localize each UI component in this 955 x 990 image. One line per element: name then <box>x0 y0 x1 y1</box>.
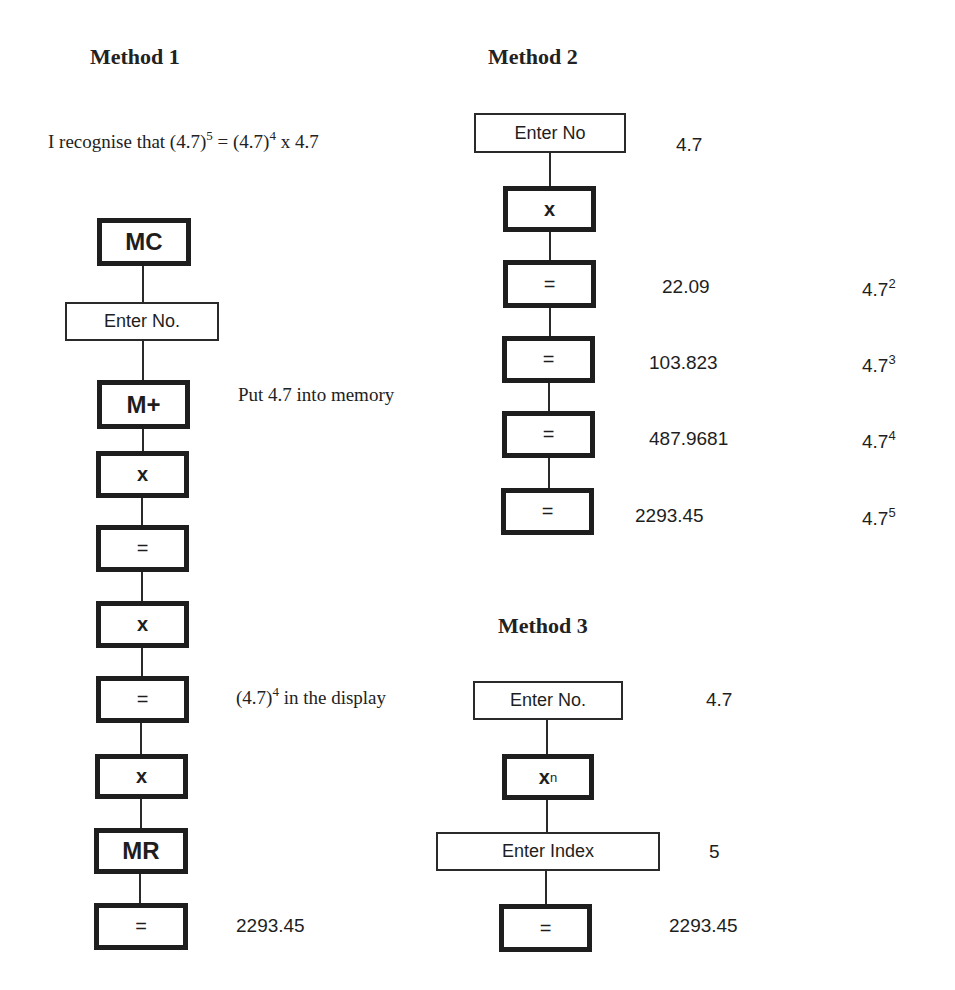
connector-line <box>139 872 141 906</box>
connector-line <box>142 264 144 304</box>
connector-line <box>549 306 551 338</box>
multiply-key[interactable]: x <box>95 754 188 799</box>
equals-key[interactable]: = <box>502 336 595 383</box>
connector-line <box>142 339 144 381</box>
enter-index-box[interactable]: Enter Index <box>436 832 660 871</box>
display-value: 103.823 <box>649 352 718 374</box>
connector-line <box>140 796 142 830</box>
mc-key[interactable]: MC <box>97 218 191 266</box>
power-label: 4.73 <box>862 352 896 377</box>
equals-key[interactable]: = <box>503 260 596 308</box>
power-exponent: 2 <box>888 276 895 291</box>
equals-key[interactable]: = <box>94 903 188 950</box>
equals-key[interactable]: = <box>499 904 592 952</box>
enter-number-box[interactable]: Enter No. <box>473 681 623 720</box>
connector-line <box>141 571 143 602</box>
memory-annotation: Put 4.7 into memory <box>238 384 394 406</box>
multiply-key[interactable]: x <box>96 451 189 498</box>
method2-title: Method 2 <box>488 44 578 70</box>
index-value: 5 <box>709 841 720 863</box>
power-exponent: 3 <box>888 352 895 367</box>
connector-line <box>548 456 550 490</box>
connector-line <box>546 798 548 834</box>
multiply-key[interactable]: x <box>503 186 596 232</box>
method1-result: 2293.45 <box>236 915 305 937</box>
display-value: 4.7 <box>706 689 732 711</box>
power-base: 4.7 <box>862 508 888 529</box>
method3-title: Method 3 <box>498 613 588 639</box>
display-value: 2293.45 <box>635 505 704 527</box>
connector-line <box>141 496 143 526</box>
multiply-key[interactable]: x <box>96 601 189 648</box>
power-key-exponent: n <box>550 770 557 785</box>
connector-line <box>546 719 548 755</box>
m-plus-key[interactable]: M+ <box>97 380 190 429</box>
equals-key[interactable]: = <box>96 676 189 723</box>
equals-key[interactable]: = <box>501 488 594 535</box>
power-base: 4.7 <box>862 279 888 300</box>
display-suffix: in the display <box>279 687 386 708</box>
display-value: 487.9681 <box>649 428 728 450</box>
mr-key[interactable]: MR <box>94 828 188 874</box>
power-label: 4.75 <box>862 505 896 530</box>
display-prefix: (4.7) <box>236 687 272 708</box>
equals-key[interactable]: = <box>502 411 595 458</box>
intro-mid: = (4.7) <box>213 131 270 152</box>
method1-intro: I recognise that (4.7)5 = (4.7)4 x 4.7 <box>48 128 319 153</box>
method3-result: 2293.45 <box>669 915 738 937</box>
connector-line <box>140 721 142 755</box>
power-base: 4.7 <box>862 355 888 376</box>
connector-line <box>549 230 551 262</box>
display-annotation: (4.7)4 in the display <box>236 684 386 709</box>
display-value: 22.09 <box>662 276 710 298</box>
method1-title: Method 1 <box>90 44 180 70</box>
power-label: 4.72 <box>862 276 896 301</box>
power-exponent: 5 <box>888 505 895 520</box>
power-key[interactable]: xn <box>502 754 594 800</box>
equals-key[interactable]: = <box>96 525 189 572</box>
enter-number-box[interactable]: Enter No. <box>65 302 219 341</box>
power-label: 4.74 <box>862 428 896 453</box>
connector-line <box>548 381 550 413</box>
power-key-base: x <box>539 766 550 789</box>
intro-prefix: I recognise that (4.7) <box>48 131 206 152</box>
intro-suffix: x 4.7 <box>276 131 319 152</box>
power-base: 4.7 <box>862 431 888 452</box>
power-exponent: 4 <box>888 428 895 443</box>
display-value: 4.7 <box>676 134 702 156</box>
enter-number-box[interactable]: Enter No <box>474 113 626 153</box>
connector-line <box>141 646 143 677</box>
connector-line <box>545 870 547 906</box>
connector-line <box>549 151 551 187</box>
